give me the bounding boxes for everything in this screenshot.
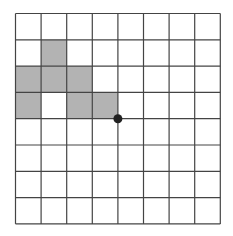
marker-dot bbox=[113, 114, 122, 123]
dot-icon bbox=[113, 114, 122, 123]
shaded-cell bbox=[41, 40, 67, 66]
grid-diagram bbox=[0, 0, 233, 236]
shaded-cell bbox=[67, 66, 93, 92]
shaded-cell bbox=[16, 66, 42, 92]
shaded-cell bbox=[41, 66, 67, 92]
shaded-cell bbox=[67, 92, 93, 118]
shaded-cell bbox=[92, 92, 118, 118]
shaded-cell bbox=[16, 92, 42, 118]
